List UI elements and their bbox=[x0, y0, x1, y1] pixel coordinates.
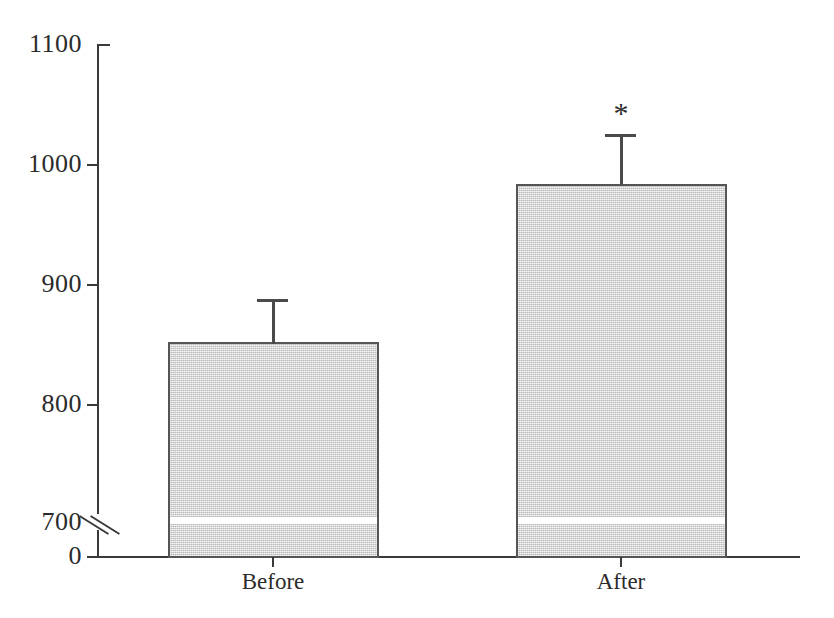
error-bar-cap-before bbox=[257, 299, 288, 302]
error-bar-stem-before bbox=[272, 300, 275, 344]
x-tick-mark-after bbox=[620, 557, 622, 567]
axis-break-band-after bbox=[518, 517, 725, 524]
y-tick-mark-0 bbox=[87, 556, 98, 558]
axis-break-symbol bbox=[84, 505, 124, 545]
x-tick-mark-before bbox=[272, 557, 274, 567]
y-tick-mark-800 bbox=[87, 404, 98, 406]
y-tick-label-0: 0 bbox=[69, 543, 83, 569]
y-tick-mark-900 bbox=[87, 284, 98, 286]
bar-chart: 1100 1000 900 800 700 0 * Before After bbox=[0, 0, 834, 618]
bar-after bbox=[516, 184, 727, 558]
axis-break-band-before bbox=[170, 517, 377, 524]
significance-asterisk: * bbox=[591, 98, 651, 128]
x-tick-label-before: Before bbox=[193, 570, 353, 593]
y-tick-mark-1000 bbox=[87, 164, 98, 166]
error-bar-stem-after bbox=[620, 135, 623, 185]
y-tick-label-1000: 1000 bbox=[28, 151, 82, 177]
error-bar-cap-after bbox=[605, 134, 636, 137]
y-tick-label-800: 800 bbox=[42, 391, 83, 417]
bar-before bbox=[168, 342, 379, 558]
y-tick-label-1100: 1100 bbox=[29, 31, 82, 57]
y-tick-mark-1100 bbox=[97, 44, 110, 46]
y-tick-label-700: 700 bbox=[42, 509, 83, 535]
y-tick-label-900: 900 bbox=[42, 271, 83, 297]
x-tick-label-after: After bbox=[541, 570, 701, 593]
y-axis-line bbox=[97, 44, 99, 558]
